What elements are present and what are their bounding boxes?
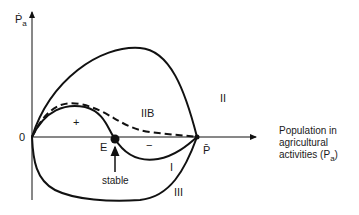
p-bar-label: P̄ — [203, 145, 210, 156]
origin-label: 0 — [19, 132, 25, 143]
curve-ii — [32, 48, 197, 137]
equilibrium-point-e — [111, 135, 120, 144]
p-bar-point — [195, 135, 200, 140]
phase-diagram — [0, 0, 359, 215]
minus-sign: − — [146, 140, 152, 151]
stable-label: stable — [102, 176, 129, 186]
curve-label-iib: IIB — [141, 108, 154, 119]
plus-sign: + — [73, 117, 79, 128]
curve-iib-dashed — [32, 103, 197, 137]
y-axis-label: Ṗa — [15, 14, 27, 28]
equilibrium-label: E — [100, 142, 107, 153]
x-axis-label: Population in agricultural activities (P… — [279, 125, 338, 165]
curve-label-i: I — [170, 162, 173, 173]
curve-label-iii: III — [174, 187, 183, 198]
curve-label-ii: II — [220, 93, 226, 104]
